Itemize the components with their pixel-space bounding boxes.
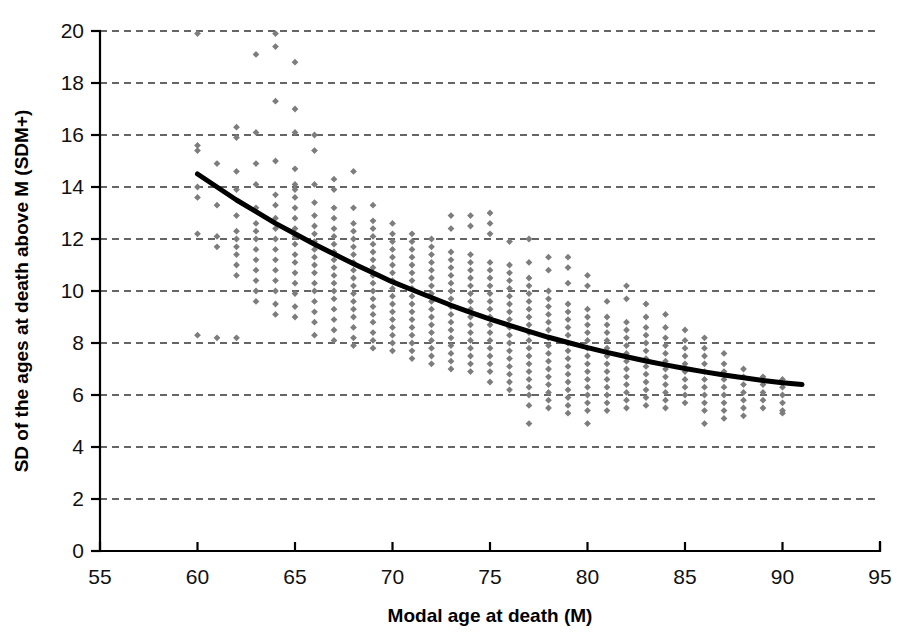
scatter-point: [487, 329, 494, 336]
scatter-point: [565, 264, 572, 271]
scatter-point: [194, 230, 201, 237]
scatter-point: [682, 345, 689, 352]
scatter-point: [721, 399, 728, 406]
scatter-point: [565, 280, 572, 287]
scatter-point: [272, 256, 279, 263]
scatter-point: [389, 230, 396, 237]
scatter-point: [428, 251, 435, 258]
scatter-point: [389, 293, 396, 300]
scatter-point: [779, 392, 786, 399]
scatter-point: [643, 363, 650, 370]
scatter-point: [253, 160, 260, 167]
scatter-point: [311, 332, 318, 339]
scatter-point: [331, 225, 338, 232]
y-tick-label: 4: [72, 435, 84, 458]
scatter-point: [253, 256, 260, 263]
scatter-point: [448, 311, 455, 318]
scatter-point: [311, 199, 318, 206]
scatter-point: [389, 324, 396, 331]
scatter-point: [721, 360, 728, 367]
scatter-point: [526, 306, 533, 313]
scatter-point: [506, 355, 513, 362]
scatter-point: [311, 288, 318, 295]
scatter-point: [272, 288, 279, 295]
scatter-point: [370, 241, 377, 248]
scatter-point: [526, 282, 533, 289]
scatter-point: [701, 392, 708, 399]
scatter-point: [467, 223, 474, 230]
scatter-point: [584, 376, 591, 383]
y-tick-label: 16: [61, 123, 84, 146]
scatter-point: [448, 350, 455, 357]
scatter-point: [545, 295, 552, 302]
scatter-point: [292, 215, 299, 222]
scatter-point: [370, 303, 377, 310]
scatter-point: [643, 301, 650, 308]
scatter-point: [623, 381, 630, 388]
scatter-point: [409, 269, 416, 276]
scatter-point: [467, 259, 474, 266]
scatter-point: [311, 132, 318, 139]
scatter-point: [760, 397, 767, 404]
scatter-point: [292, 259, 299, 266]
scatter-point: [662, 397, 669, 404]
scatter-point: [545, 319, 552, 326]
scatter-point: [565, 308, 572, 315]
scatter-point: [253, 277, 260, 284]
scatter-point: [214, 160, 221, 167]
scatter-point: [350, 251, 357, 258]
scatter-point: [467, 360, 474, 367]
scatter-point: [545, 381, 552, 388]
scatter-point: [506, 363, 513, 370]
scatter-point: [565, 410, 572, 417]
scatter-point: [428, 329, 435, 336]
scatter-point: [701, 407, 708, 414]
scatter-point: [292, 204, 299, 211]
scatter-point: [487, 275, 494, 282]
scatter-point: [350, 275, 357, 282]
scatter-point: [506, 301, 513, 308]
scatter-point: [467, 321, 474, 328]
scatter-point: [506, 386, 513, 393]
scatter-point: [194, 332, 201, 339]
scatter-point: [389, 316, 396, 323]
scatter-point: [389, 220, 396, 227]
scatter-point: [740, 405, 747, 412]
scatter-point: [526, 275, 533, 282]
scatter-point: [701, 399, 708, 406]
scatter-point: [370, 202, 377, 209]
scatter-point: [662, 405, 669, 412]
scatter-point: [448, 212, 455, 219]
scatter-point: [409, 301, 416, 308]
scatter-point: [643, 332, 650, 339]
scatter-point: [389, 332, 396, 339]
scatter-point: [682, 399, 689, 406]
scatter-point: [292, 241, 299, 248]
scatter-point: [506, 269, 513, 276]
scatter-point: [253, 288, 260, 295]
scatter-point: [370, 217, 377, 224]
scatter-point: [565, 347, 572, 354]
scatter-point: [584, 399, 591, 406]
scatter-point: [370, 329, 377, 336]
scatter-point: [643, 347, 650, 354]
scatter-point: [350, 314, 357, 321]
trend-curve: [198, 174, 803, 385]
scatter-point: [662, 324, 669, 331]
scatter-point: [311, 254, 318, 261]
scatter-point: [506, 277, 513, 284]
scatter-point: [194, 194, 201, 201]
scatter-point: [487, 298, 494, 305]
scatter-point: [331, 327, 338, 334]
scatter-point: [292, 251, 299, 258]
scatter-point: [448, 225, 455, 232]
scatter-point: [292, 314, 299, 321]
scatter-point: [370, 319, 377, 326]
scatter-point: [526, 298, 533, 305]
scatter-point: [701, 353, 708, 360]
scatter-point: [662, 373, 669, 380]
scatter-point: [526, 236, 533, 243]
scatter-point: [545, 267, 552, 274]
scatter-point: [467, 212, 474, 219]
scatter-point: [428, 259, 435, 266]
